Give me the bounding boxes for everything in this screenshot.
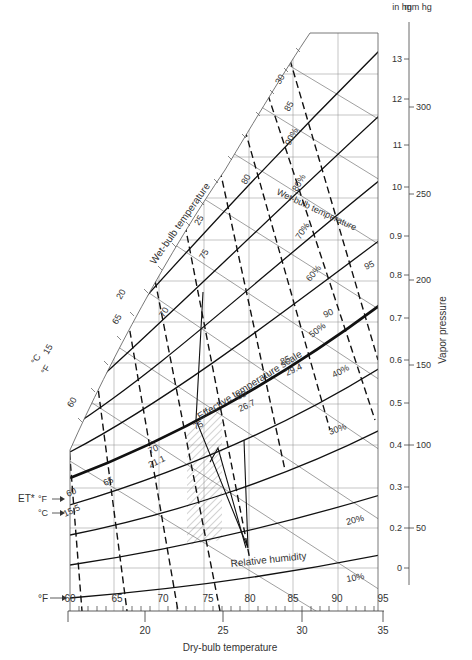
arrow-icon [60, 496, 65, 502]
svg-text:90: 90 [322, 307, 335, 320]
svg-text:25: 25 [192, 213, 206, 227]
y-axis-right: in hg mm hg 13 12 11 [389, 2, 448, 585]
svg-text:0.4: 0.4 [389, 440, 402, 450]
svg-text:40%: 40% [330, 362, 351, 379]
svg-text:80: 80 [244, 593, 256, 604]
svg-text:20%: 20% [345, 513, 365, 527]
effective-temperature-lines [67, 60, 378, 611]
svg-text:35: 35 [377, 625, 389, 636]
rh-title: Relative humidity [230, 550, 307, 569]
x-axis-minor-ticks [79, 606, 374, 611]
svg-text:15.5: 15.5 [62, 502, 82, 518]
svg-text:60: 60 [65, 395, 79, 409]
svg-text:90: 90 [331, 593, 343, 604]
svg-text:50%: 50% [307, 321, 327, 340]
svg-text:11: 11 [393, 140, 402, 150]
svg-text:20: 20 [114, 287, 128, 301]
svg-text:65: 65 [102, 475, 115, 488]
svg-text:70: 70 [157, 593, 169, 604]
chart-canvas: 60 65 70 75 80 85 90 95 20 25 30 35 Dry-… [0, 0, 472, 660]
x-axis [68, 606, 384, 622]
svg-text:0.5: 0.5 [389, 398, 402, 408]
svg-text:0: 0 [397, 563, 402, 573]
svg-text:0.3: 0.3 [389, 482, 402, 492]
svg-text:20: 20 [139, 625, 151, 636]
psychrometric-chart: 60 65 70 75 80 85 90 95 20 25 30 35 Dry-… [0, 0, 472, 660]
x-axis-celsius-labels: 20 25 30 35 [139, 625, 389, 636]
svg-text:12: 12 [392, 94, 402, 104]
svg-text:80%: 80% [290, 172, 308, 193]
svg-text:°C: °C [38, 508, 49, 518]
svg-text:85: 85 [282, 99, 296, 113]
comfort-zone-hatch [187, 408, 222, 545]
svg-text:0.2: 0.2 [389, 523, 402, 533]
svg-text:85: 85 [287, 593, 299, 604]
wet-bulb-f-labels: 60 65 70 75 80 85 [65, 99, 296, 409]
svg-text:°C: °C [29, 352, 43, 366]
svg-text:10%: 10% [346, 571, 365, 584]
x-axis-title: Dry-bulb temperature [183, 642, 278, 653]
svg-text:50: 50 [416, 523, 426, 533]
svg-text:75: 75 [197, 247, 211, 261]
svg-text:95: 95 [377, 593, 389, 604]
svg-text:75: 75 [202, 593, 214, 604]
wet-bulb-scale-ticks [78, 48, 300, 422]
mm-hg-tick-labels: 300 250 200 150 100 50 [416, 102, 431, 533]
et-c-labels: 15.5 21.1 26.7 29.4 [62, 361, 304, 518]
svg-text:95: 95 [363, 259, 376, 272]
svg-text:10: 10 [392, 182, 402, 192]
wet-bulb-lines [60, 60, 380, 650]
svg-text:15: 15 [41, 342, 55, 356]
et-marker: ET* °F °C [18, 493, 65, 518]
svg-text:30: 30 [296, 625, 308, 636]
svg-text:0.7: 0.7 [389, 313, 402, 323]
svg-text:200: 200 [416, 275, 431, 285]
svg-text:100: 100 [416, 440, 431, 450]
svg-text:25: 25 [217, 625, 229, 636]
svg-text:65: 65 [110, 312, 124, 326]
svg-text:0.9: 0.9 [389, 231, 402, 241]
svg-text:°F: °F [38, 593, 48, 604]
svg-text:65: 65 [111, 593, 123, 604]
y-axis-title: Vapor pressure [437, 296, 448, 364]
x-axis-fahrenheit-labels: 60 65 70 75 80 85 90 95 [64, 593, 389, 604]
svg-text:250: 250 [416, 189, 431, 199]
svg-text:ET*: ET* [18, 493, 35, 504]
svg-text:60: 60 [64, 593, 76, 604]
svg-text:0.8: 0.8 [389, 270, 402, 280]
wet-bulb-title-inner: Wet-bulb temperature [275, 187, 358, 233]
svg-text:°F: °F [38, 494, 48, 504]
saturation-curve [70, 33, 310, 450]
svg-text:13: 13 [392, 54, 402, 64]
svg-text:60: 60 [65, 486, 78, 499]
svg-text:°F: °F [39, 363, 52, 376]
svg-text:150: 150 [416, 360, 431, 370]
svg-text:60%: 60% [304, 263, 323, 283]
svg-text:21.1: 21.1 [147, 453, 167, 469]
fahrenheit-axis-marker: °F [38, 593, 67, 604]
plot-area [60, 20, 380, 650]
svg-text:30%: 30% [327, 421, 347, 437]
svg-text:300: 300 [416, 102, 431, 112]
svg-text:30: 30 [273, 72, 287, 86]
in-hg-tick-labels: 13 12 11 10 0.9 0.8 0.7 0.6 0.5 0.4 0.3 … [389, 54, 402, 573]
svg-text:mm hg: mm hg [404, 2, 432, 12]
svg-text:0.6: 0.6 [389, 355, 402, 365]
